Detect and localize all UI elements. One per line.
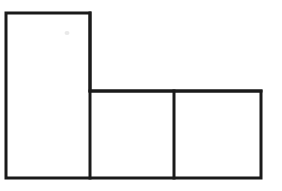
bottom-middle-square-face (90, 91, 174, 178)
bottom-right-square-face (174, 91, 261, 178)
figure-canvas (0, 0, 282, 191)
tall-left-rectangle-face (6, 13, 90, 178)
faint-gray-smudge-artifact (65, 31, 70, 35)
l-shape-figure (0, 0, 282, 191)
